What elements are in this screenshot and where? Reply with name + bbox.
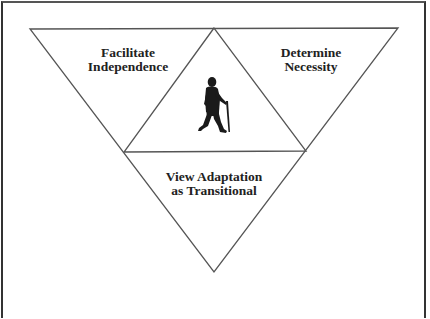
person-walking-with-cane-icon <box>198 77 230 133</box>
label-line: Facilitate <box>88 46 168 60</box>
label-line: as Transitional <box>166 184 263 198</box>
label-determine-necessity: Determine Necessity <box>281 46 342 74</box>
label-line: Independence <box>88 60 168 74</box>
diagram-canvas: Facilitate Independence Determine Necess… <box>0 0 430 319</box>
label-line: Necessity <box>281 60 342 74</box>
label-facilitate-independence: Facilitate Independence <box>88 46 168 74</box>
outer-triangle <box>30 28 398 272</box>
inverted-triangle-diagram <box>0 0 430 319</box>
label-view-adaptation: View Adaptation as Transitional <box>166 170 263 198</box>
label-line: Determine <box>281 46 342 60</box>
label-line: View Adaptation <box>166 170 263 184</box>
